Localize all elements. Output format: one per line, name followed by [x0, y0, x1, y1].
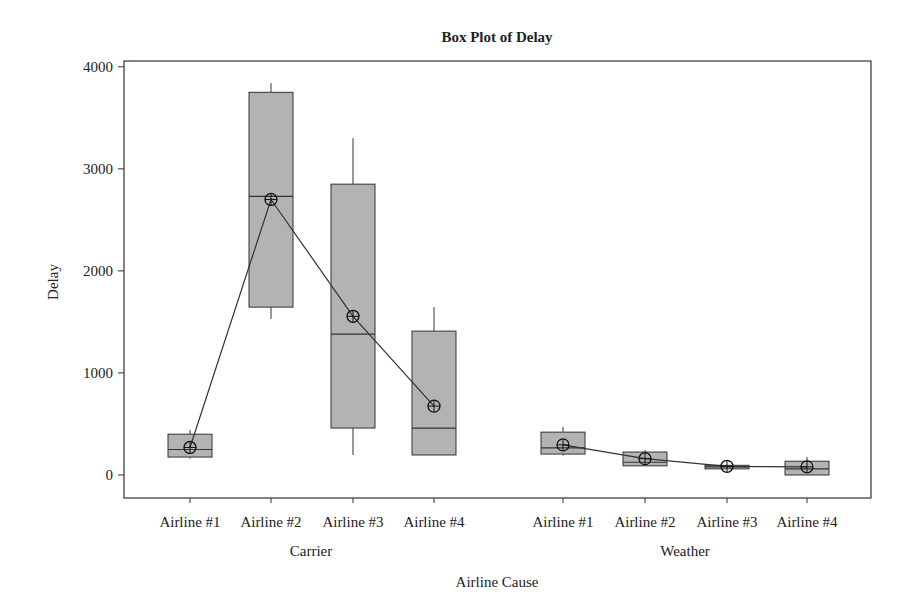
x-group-label: Carrier: [290, 543, 332, 559]
plot-border: [124, 61, 871, 498]
y-axis: 01000200030004000: [83, 59, 124, 483]
chart-canvas: Box Plot of Delay Delay Airline Cause 01…: [0, 0, 915, 612]
mean-marker-icon: [347, 310, 359, 322]
y-tick-label: 1000: [83, 365, 113, 381]
x-tick-label: Airline #4: [403, 514, 465, 530]
mean-line-weather: [563, 445, 807, 467]
x-tick-label: Airline #2: [614, 514, 675, 530]
mean-line-carrier: [190, 199, 434, 447]
x-axis-label: Airline Cause: [456, 574, 539, 590]
x-tick-label: Airline #1: [159, 514, 220, 530]
mean-marker-icon: [639, 453, 651, 465]
x-tick-label: Airline #2: [240, 514, 301, 530]
y-axis-label: Delay: [45, 264, 61, 300]
box-carrier-3: [331, 138, 375, 455]
mean-marker-icon: [801, 461, 813, 473]
chart-title: Box Plot of Delay: [441, 29, 553, 45]
y-tick-label: 3000: [83, 161, 113, 177]
iqr-box: [331, 184, 375, 428]
x-group-label: Weather: [660, 543, 710, 559]
mean-marker-icon: [721, 460, 733, 472]
mean-marker-icon: [428, 400, 440, 412]
box-carrier-4: [412, 307, 456, 455]
x-axis: Airline #1Airline #2Airline #3Airline #4…: [159, 498, 838, 559]
x-tick-label: Airline #3: [696, 514, 757, 530]
mean-marker-icon: [557, 439, 569, 451]
y-tick-label: 4000: [83, 59, 113, 75]
plot-area: [124, 61, 871, 498]
mean-marker-icon: [184, 441, 196, 453]
x-tick-label: Airline #3: [322, 514, 383, 530]
iqr-box: [412, 331, 456, 455]
y-tick-label: 0: [106, 467, 114, 483]
box-series: [168, 83, 829, 475]
mean-marker-icon: [265, 193, 277, 205]
x-tick-label: Airline #1: [532, 514, 593, 530]
x-tick-label: Airline #4: [776, 514, 838, 530]
box-plot-chart: Box Plot of Delay Delay Airline Cause 01…: [0, 0, 915, 612]
y-tick-label: 2000: [83, 263, 113, 279]
